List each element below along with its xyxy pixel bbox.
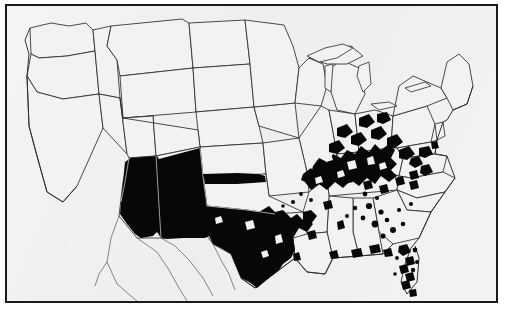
us-choropleth-map: [7, 6, 496, 301]
shaded-region-oklahoma: [203, 173, 266, 184]
shaded-patches-florida: [393, 244, 419, 297]
map-frame: [5, 4, 498, 303]
screenshot-root: [0, 0, 506, 309]
